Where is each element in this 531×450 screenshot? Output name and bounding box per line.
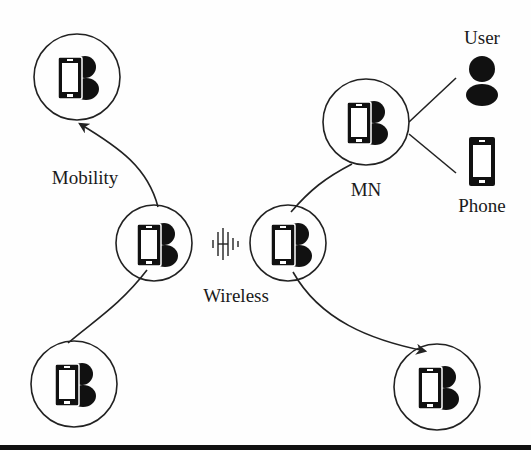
node-bottom-right — [394, 344, 480, 430]
bottom-border — [0, 445, 531, 450]
phone-label: Phone — [458, 195, 506, 217]
node-center-right — [250, 205, 326, 281]
wireless-label: Wireless — [203, 285, 269, 307]
node-bottom-left — [31, 341, 117, 427]
mobile-network-diagram: User Mobility MN Phone Wireless — [0, 0, 531, 450]
node-center-left — [116, 205, 192, 281]
edge-mn-to-user — [409, 78, 456, 122]
phone-icon — [469, 137, 495, 186]
mn-label: MN — [351, 179, 382, 201]
mobility-arrow-down — [293, 272, 425, 351]
edge-center-left-to-bottom-left — [68, 270, 147, 343]
user-label: User — [464, 27, 500, 49]
node-mn — [323, 79, 409, 165]
edge-mn-to-phone — [409, 134, 456, 173]
wireless-signal-icon — [213, 228, 238, 260]
user-icon — [466, 56, 498, 106]
mobility-arrow — [80, 124, 158, 207]
mobility-label: Mobility — [52, 167, 119, 189]
node-top-left — [34, 34, 120, 120]
diagram-svg — [0, 0, 531, 450]
edge-center-right-to-mn — [291, 164, 352, 212]
